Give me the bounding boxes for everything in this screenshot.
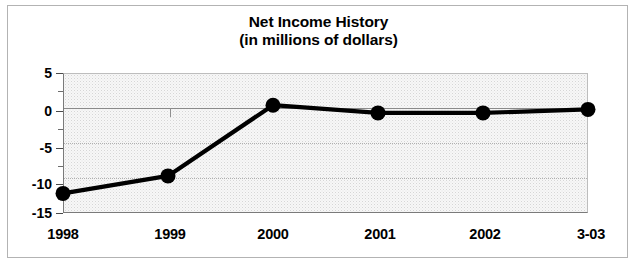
xtick-label-2000: 2000: [228, 227, 318, 242]
ytick-minus-5: [56, 148, 63, 149]
chart-figure: Net Income History (in millions of dolla…: [0, 0, 637, 270]
ytick-2p5: [58, 91, 63, 92]
xtick-label-1999: 1999: [125, 227, 215, 242]
ytick-label-minus-10: -10: [0, 177, 52, 191]
ytick-minus-15: [56, 213, 63, 214]
chart-subtitle: (in millions of dollars): [0, 31, 637, 49]
ytick-label-0: 0: [0, 104, 52, 118]
xtick-label-2001: 2001: [335, 227, 425, 242]
xtick-label-2002: 2002: [440, 227, 530, 242]
ytick-0: [56, 111, 63, 112]
ytick-label-minus-15: -15: [0, 206, 52, 220]
gridline-zero: [64, 108, 587, 109]
chart-title: Net Income History: [0, 13, 637, 31]
ytick-minus-12p5: [58, 199, 63, 200]
gridline-minus-5: [64, 143, 587, 144]
ytick-label-5: 5: [0, 66, 52, 80]
ytick-5: [56, 73, 63, 74]
ytick-label-minus-5: -5: [0, 141, 52, 155]
ytick-minus-7p5: [58, 166, 63, 167]
ytick-minus-2p5: [58, 129, 63, 130]
plot-area: [63, 73, 588, 213]
chart-title-block: Net Income History (in millions of dolla…: [0, 13, 637, 50]
inner-tick-1999-zero: [170, 108, 171, 117]
ytick-minus-10: [56, 184, 63, 185]
xtick-label-3-03: 3-03: [546, 227, 636, 242]
gridline-minus-10: [64, 178, 587, 179]
xtick-label-1998: 1998: [18, 227, 108, 242]
